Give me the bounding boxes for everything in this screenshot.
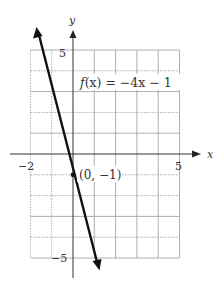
y-intercept-dot bbox=[71, 172, 76, 177]
function-graph: x y −2 5 5 −5 (0, −1) f(x) = −4x − 1 bbox=[0, 0, 216, 286]
y-tick-max: 5 bbox=[59, 47, 66, 60]
x-tick-max: 5 bbox=[175, 160, 182, 173]
x-tick-min: −2 bbox=[18, 160, 34, 173]
y-tick-min: −5 bbox=[51, 252, 67, 265]
function-label: f(x) = −4x − 1 bbox=[79, 75, 172, 90]
point-label: (0, −1) bbox=[79, 168, 121, 182]
x-axis-label: x bbox=[207, 148, 214, 161]
function-line bbox=[33, 27, 102, 271]
x-axis bbox=[10, 151, 201, 158]
y-axis-label: y bbox=[68, 14, 76, 27]
